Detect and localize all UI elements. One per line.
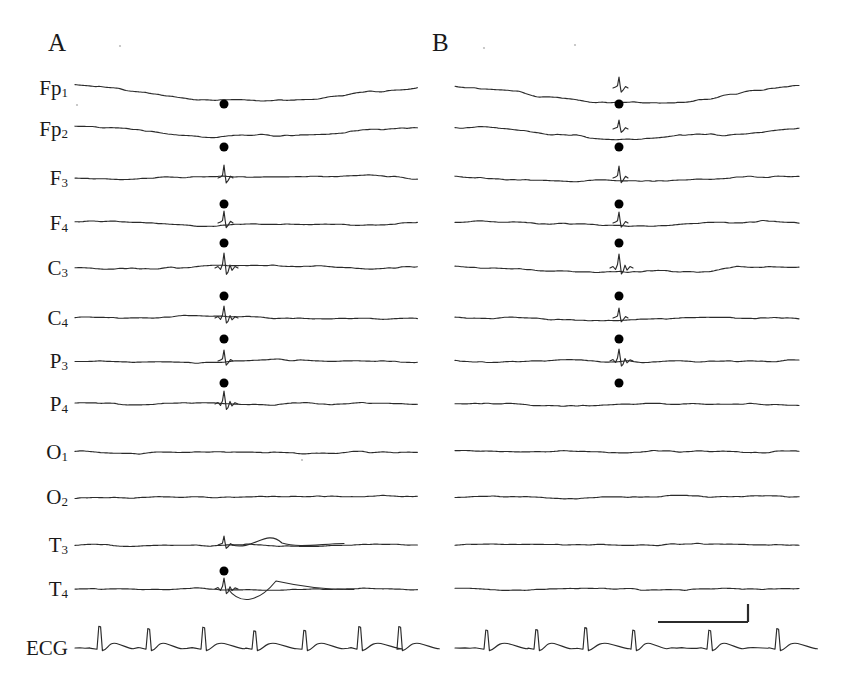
spike-marker-dot-panel-a-7 (220, 379, 229, 388)
scan-speck-4 (301, 459, 303, 461)
eeg-trace-fp1-panel-a (75, 85, 417, 101)
spike-marker-dot-panel-b-2 (615, 143, 624, 152)
spike-marker-dot-panel-b-1 (615, 100, 624, 109)
eeg-trace-t3-panel-b (455, 543, 799, 545)
spike-complex-p3-panel-a (218, 350, 233, 365)
eeg-trace-c3-panel-a (75, 265, 417, 269)
eeg-trace-p4-panel-b (455, 403, 799, 406)
spike-marker-dot-panel-a-3 (220, 200, 229, 209)
spike-marker-dot-panel-a-5 (220, 292, 229, 301)
eeg-trace-o2-panel-a (75, 495, 417, 498)
eeg-trace-t4-panel-b (455, 588, 799, 590)
eeg-trace-o2-panel-b (455, 495, 799, 499)
spike-complex-c3-panel-b (610, 254, 633, 274)
spike-marker-dot-panel-b-3 (615, 200, 624, 209)
ecg-trace-panel-a (75, 626, 439, 650)
spike-complex-fp1-panel-b (613, 77, 628, 92)
spike-complex-p4-panel-a (215, 391, 238, 410)
eeg-trace-o1-panel-b (455, 451, 799, 453)
eeg-trace-o1-panel-a (75, 451, 417, 454)
ecg-trace-panel-b (455, 628, 817, 651)
spike-complex-p3-panel-b (610, 349, 633, 366)
spike-complex-c4-panel-a (215, 306, 238, 323)
spike-complex-c3-panel-a (215, 253, 238, 274)
spike-marker-dot-panel-a-1 (220, 100, 229, 109)
spike-complex-fp2-panel-b (613, 120, 628, 132)
spike-marker-dot-panel-a-6 (220, 335, 229, 344)
eeg-trace-f3-panel-a (75, 175, 417, 180)
spike-marker-dot-panel-b-5 (615, 292, 624, 301)
spike-marker-dot-panel-a-2 (220, 143, 229, 152)
eeg-trace-fp1-panel-b (455, 86, 799, 104)
after-discharge-t4-panel-a (228, 581, 354, 599)
spike-marker-dot-panel-b-7 (615, 379, 624, 388)
scan-speck-1 (76, 104, 78, 106)
eeg-trace-p3-panel-a (75, 359, 417, 363)
scan-speck-3 (574, 44, 576, 46)
eeg-trace-p4-panel-a (75, 403, 417, 406)
scan-speck-0 (119, 45, 121, 47)
spike-complex-t3-panel-a (218, 536, 233, 548)
scale-bar (658, 604, 748, 622)
spike-marker-dot-panel-b-6 (615, 335, 624, 344)
spike-marker-dot-panel-a-8 (220, 567, 229, 576)
eeg-trace-f4-panel-a (75, 221, 417, 226)
eeg-trace-fp2-panel-a (75, 126, 417, 137)
eeg-trace-t4-panel-a (75, 588, 417, 590)
after-discharge-t3-panel-a (232, 538, 344, 546)
spike-complex-t4-panel-a (215, 578, 238, 594)
spike-marker-dot-panel-a-4 (220, 239, 229, 248)
scan-speck-2 (483, 47, 485, 49)
waveform-canvas (0, 0, 843, 688)
spike-marker-dot-panel-b-4 (615, 239, 624, 248)
spike-complex-f3-panel-a (218, 165, 233, 183)
eeg-trace-f4-panel-b (455, 221, 799, 227)
eeg-figure: A B Fp1Fp2F3F4C3C4P3P4O1O2T3T4ECG (0, 0, 843, 688)
eeg-trace-c4-panel-a (75, 315, 417, 319)
